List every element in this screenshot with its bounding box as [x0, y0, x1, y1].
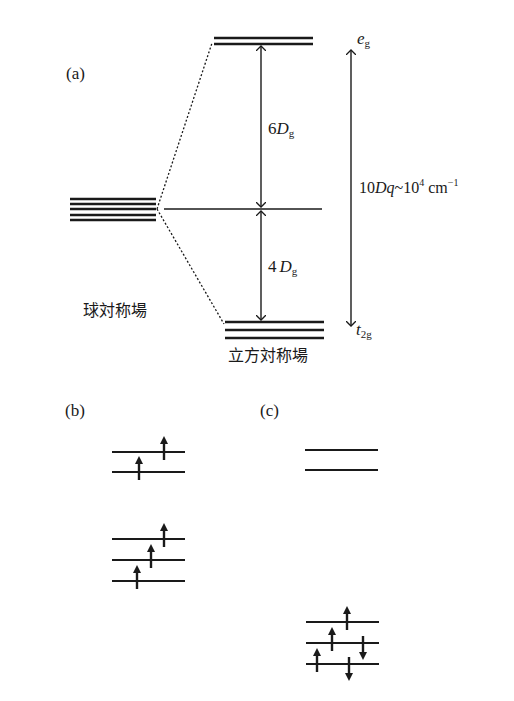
panel-b-levels — [112, 452, 185, 581]
splitting-energy-label: 10Dq~104 cm−1 — [359, 177, 458, 197]
correlation-lines — [157, 43, 224, 324]
spherical-field-label: 球対称場 — [83, 302, 147, 319]
t2g-label: t2g — [356, 320, 372, 340]
panel-c: (c) — [260, 401, 379, 677]
panel-a-label: (a) — [66, 64, 85, 83]
upper-gap-label: 6Dg — [268, 119, 295, 139]
eg-levels — [214, 38, 313, 44]
panel-c-label: (c) — [260, 401, 279, 420]
crystal-field-diagram: (a) 6Dg 4Dg — [0, 0, 514, 701]
spherical-field-levels — [70, 199, 156, 220]
panel-b-label: (b) — [65, 401, 85, 420]
eg-label: eg — [357, 29, 371, 49]
panel-a: (a) 6Dg 4Dg — [66, 29, 458, 364]
lower-gap-label: 4Dg — [268, 257, 298, 277]
panel-b-spins — [137, 440, 164, 589]
t2g-levels — [225, 322, 324, 338]
panel-b: (b) — [65, 401, 185, 589]
cubic-field-label: 立方対称場 — [228, 347, 308, 364]
panel-c-levels — [305, 450, 379, 664]
